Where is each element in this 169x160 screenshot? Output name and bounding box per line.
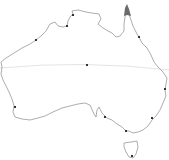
marker-cairns[interactable] [138, 36, 140, 38]
marker-broome[interactable] [35, 39, 37, 41]
marker-adelaide[interactable] [104, 116, 106, 118]
marker-alice-springs[interactable] [86, 64, 88, 66]
marker-melbourne[interactable] [125, 130, 127, 132]
marker-perth[interactable] [14, 106, 16, 108]
marker-katherine[interactable] [66, 25, 68, 27]
city-markers [14, 14, 166, 157]
marker-hobart[interactable] [131, 155, 133, 157]
marker-sydney[interactable] [151, 117, 153, 119]
marker-darwin[interactable] [72, 14, 74, 16]
mainland-coastline [1, 7, 167, 133]
australia-map [0, 0, 169, 160]
tropic-of-capricorn-line [0, 64, 169, 70]
highlight-region-cape-york [124, 4, 131, 16]
marker-brisbane[interactable] [164, 88, 166, 90]
